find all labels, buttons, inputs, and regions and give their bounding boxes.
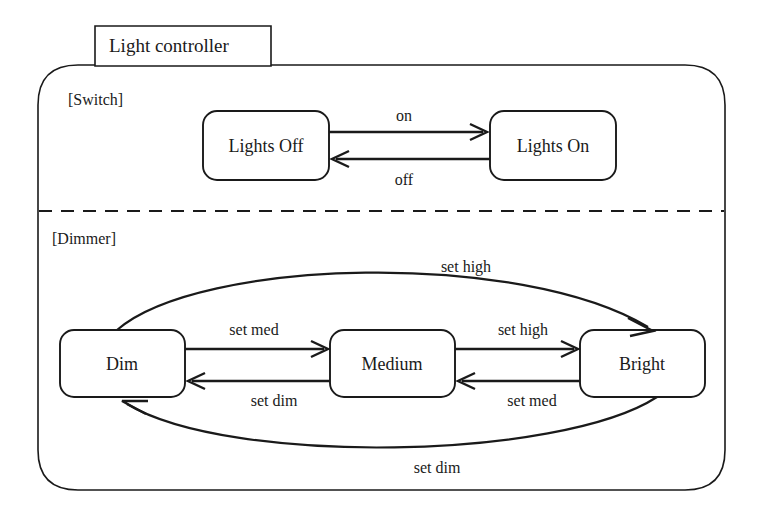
region-label-dimmer: [Dimmer] xyxy=(52,230,116,247)
transition-label-off: off xyxy=(395,171,414,188)
diagram-title: Light controller xyxy=(109,35,229,56)
state-label-lights-off: Lights Off xyxy=(228,136,303,156)
transition-label-on: on xyxy=(396,107,412,124)
diagram-canvas: Light controller [Switch] [Dimmer] Light… xyxy=(0,0,759,506)
transition-dim-to-bright xyxy=(117,273,648,330)
region-label-switch: [Switch] xyxy=(68,91,123,108)
light-controller-frame xyxy=(38,65,725,490)
transition-label-set-med-1: set med xyxy=(229,321,278,338)
transition-label-set-dim-1: set dim xyxy=(251,392,298,409)
arrowhead-bright-to-dim xyxy=(122,401,148,414)
transition-label-set-high-2: set high xyxy=(441,258,491,276)
state-label-lights-on: Lights On xyxy=(517,136,590,156)
state-label-dim: Dim xyxy=(106,354,138,374)
state-machine-diagram: Light controller [Switch] [Dimmer] Light… xyxy=(0,0,759,506)
state-label-medium: Medium xyxy=(362,354,423,374)
transition-bright-to-dim xyxy=(127,397,657,448)
transition-label-set-med-2: set med xyxy=(507,392,556,409)
transition-label-set-dim-2: set dim xyxy=(414,459,461,476)
state-label-bright: Bright xyxy=(619,354,665,374)
transition-label-set-high-1: set high xyxy=(498,321,548,339)
